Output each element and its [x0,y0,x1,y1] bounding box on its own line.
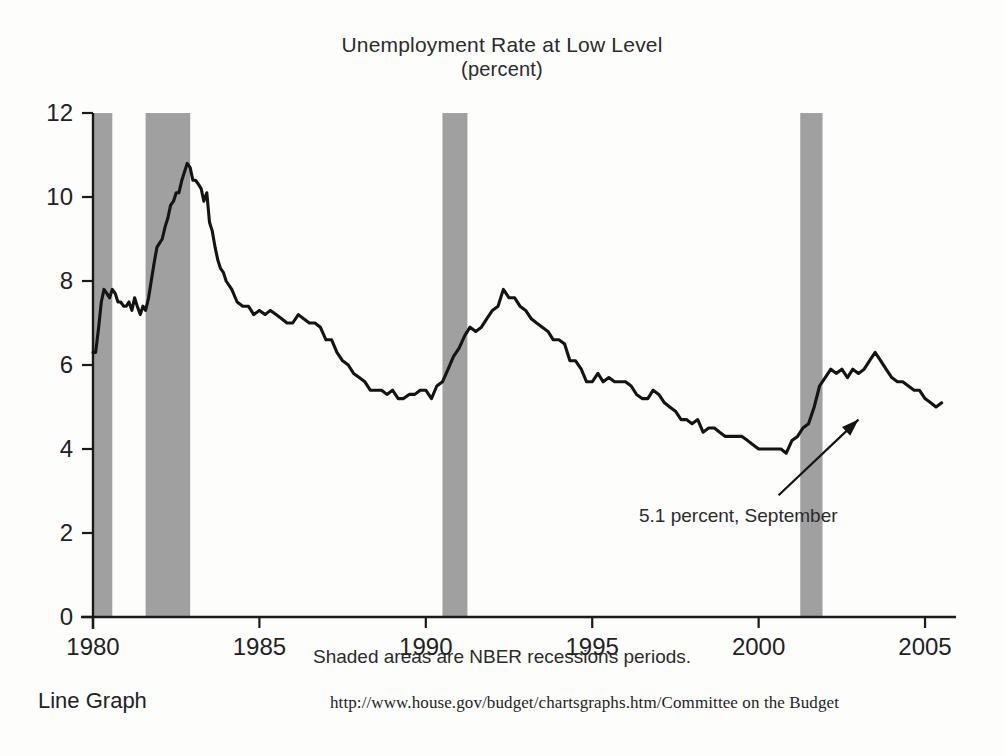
recession-band [93,113,112,617]
chart-axes [81,113,956,629]
recession-band [146,113,191,617]
chart-page: Unemployment Rate at Low Level (percent)… [0,0,1004,756]
y-tick-label: 4 [60,435,73,462]
plot-area: 024681012198019851990199520002005 [0,0,1004,756]
y-tick-label: 0 [60,603,73,630]
y-tick-label: 10 [46,183,73,210]
source-url-label: http://www.house.gov/budget/chartsgraphs… [330,693,839,713]
annotation-label: 5.1 percent, September [639,505,838,527]
y-tick-label: 8 [60,267,73,294]
y-tick-label: 6 [60,351,73,378]
chart-footnote: Shaded areas are NBER recessions periods… [0,646,1004,668]
line-graph-label: Line Graph [38,688,147,714]
recession-band [800,113,822,617]
y-tick-label: 12 [46,99,73,126]
recession-band [442,113,467,617]
y-tick-label: 2 [60,519,73,546]
